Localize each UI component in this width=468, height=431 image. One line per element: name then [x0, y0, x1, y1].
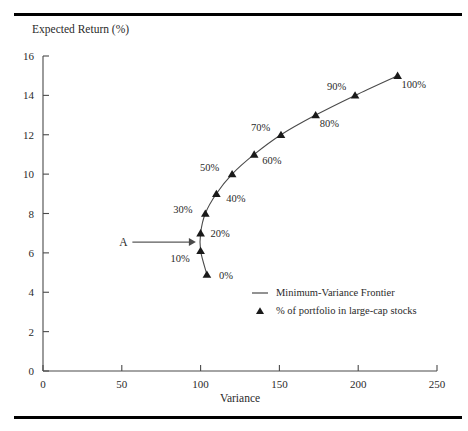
data-point-marker: [351, 91, 360, 98]
data-point-marker: [212, 190, 221, 197]
y-tick-label: 10: [23, 168, 35, 180]
x-tick-label: 250: [429, 378, 446, 390]
y-tick-label: 6: [29, 247, 35, 259]
figure-container: 0246810121416 050100150200250 Expected R…: [0, 0, 468, 431]
minimum-variance-frontier-chart: 0246810121416 050100150200250 Expected R…: [0, 0, 468, 431]
annotation-arrow-head: [189, 238, 196, 246]
x-tick-label: 100: [192, 378, 209, 390]
data-point-label: 10%: [171, 253, 191, 264]
data-point-label: 50%: [200, 162, 220, 173]
x-axis-ticks: [43, 365, 437, 371]
y-tick-label: 14: [23, 89, 35, 101]
y-axis: 0246810121416: [23, 50, 49, 377]
annotation-label-a: A: [119, 236, 128, 248]
data-point-marker: [277, 131, 286, 138]
data-series: 0%10%20%30%40%50%60%70%80%90%100%: [171, 72, 427, 281]
legend-label: % of portfolio in large-cap stocks: [276, 305, 417, 316]
data-point-label: 40%: [226, 193, 246, 204]
y-tick-label: 0: [29, 365, 35, 377]
x-axis-title: Variance: [220, 392, 260, 404]
y-axis-title: Expected Return (%): [32, 23, 129, 36]
data-point-markers: [196, 72, 402, 278]
y-axis-tick-labels: 0246810121416: [23, 50, 35, 377]
data-point-label: 30%: [173, 204, 193, 215]
y-tick-label: 8: [29, 208, 35, 220]
y-tick-label: 2: [29, 326, 35, 338]
x-tick-label: 150: [271, 378, 288, 390]
legend-triangle-swatch: [256, 307, 264, 314]
x-tick-label: 0: [40, 378, 46, 390]
x-tick-label: 200: [350, 378, 367, 390]
data-point-label: 20%: [211, 228, 231, 239]
data-point-marker: [203, 270, 212, 277]
data-point-label: 70%: [251, 122, 271, 133]
x-axis: 050100150200250: [40, 365, 446, 390]
data-point-label: 80%: [320, 118, 340, 129]
y-tick-label: 12: [23, 129, 34, 141]
data-point-marker: [201, 209, 210, 216]
data-point-label: 60%: [262, 155, 282, 166]
y-tick-label: 4: [29, 286, 35, 298]
x-axis-tick-labels: 050100150200250: [40, 378, 446, 390]
data-point-label: 100%: [402, 79, 427, 90]
annotations: A: [119, 236, 196, 248]
data-point-marker: [196, 247, 205, 254]
data-point-labels: 0%10%20%30%40%50%60%70%80%90%100%: [171, 79, 427, 281]
legend-label: Minimum-Variance Frontier: [276, 287, 395, 298]
data-point-marker: [196, 229, 205, 236]
x-tick-label: 50: [116, 378, 128, 390]
data-point-label: 0%: [219, 270, 233, 281]
y-axis-ticks: [43, 56, 49, 371]
chart-legend: Minimum-Variance Frontier% of portfolio …: [252, 287, 417, 316]
data-point-label: 90%: [327, 81, 347, 92]
y-tick-label: 16: [23, 50, 35, 62]
